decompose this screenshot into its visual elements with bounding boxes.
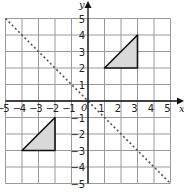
minus-sign: −: [62, 103, 70, 114]
x-tick-label: 5: [164, 103, 170, 114]
y-tick-label: 4: [79, 30, 85, 41]
y-axis-arrow-icon: [85, 1, 92, 8]
x-axis-label: x: [179, 103, 184, 114]
minus-sign: −: [71, 179, 79, 190]
y-tick-label: 3: [79, 47, 85, 58]
coordinate-grid: 5−4−3−2−1−12345543211−2−3−4−5− x y 0: [0, 0, 184, 195]
y-tick-label: 5: [79, 179, 85, 190]
origin-label: 0: [81, 102, 88, 113]
minus-sign: −: [29, 103, 37, 114]
y-tick-label: 2: [79, 63, 85, 74]
axes: [6, 1, 185, 184]
y-tick-label: 3: [79, 146, 85, 157]
y-tick-label: 5: [79, 14, 85, 25]
minus-sign: −: [46, 103, 54, 114]
minus-sign: −: [71, 146, 79, 157]
y-tick-label: 4: [79, 162, 85, 173]
minus-sign: −: [0, 103, 5, 114]
minus-sign: −: [71, 113, 79, 124]
y-tick-label: 2: [79, 129, 85, 140]
x-tick-label: 3: [131, 103, 137, 114]
y-tick-label: 1: [79, 113, 85, 124]
x-tick-label: 4: [148, 103, 154, 114]
x-tick-label: 1: [98, 103, 104, 114]
y-tick-label: 1: [79, 80, 85, 91]
minus-sign: −: [71, 129, 79, 140]
minus-sign: −: [13, 103, 21, 114]
x-tick-label: 2: [115, 103, 121, 114]
y-axis-label: y: [78, 0, 85, 10]
minus-sign: −: [71, 162, 79, 173]
